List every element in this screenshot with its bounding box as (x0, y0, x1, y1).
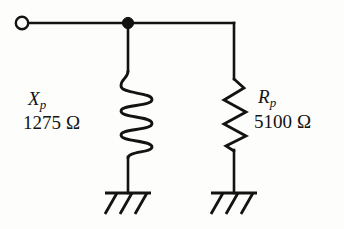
inductor-coil-symbol (121, 71, 152, 158)
resistor-zigzag-symbol (224, 79, 246, 151)
inductor-symbol-letter: X (28, 88, 40, 109)
resistor-value-label: 5100Ω (254, 112, 311, 131)
inductor-symbol-subscript: p (40, 97, 47, 112)
input-terminal-circle (16, 17, 28, 29)
ground-left-icon (105, 193, 151, 214)
resistor-value-number: 5100 (254, 111, 292, 132)
inductor-value-unit: Ω (61, 112, 80, 133)
circuit-diagram: Xp 1275Ω Rp 5100Ω (0, 0, 344, 229)
resistor-value-unit: Ω (292, 111, 311, 132)
resistor-symbol-letter: R (258, 86, 270, 107)
inductor-value-number: 1275 (23, 112, 61, 133)
inductor-symbol-label: Xp (28, 89, 46, 111)
ground-right-icon (211, 193, 257, 214)
inductor-value-label: 1275Ω (23, 113, 80, 132)
resistor-symbol-subscript: p (270, 95, 277, 110)
resistor-symbol-label: Rp (258, 87, 276, 109)
